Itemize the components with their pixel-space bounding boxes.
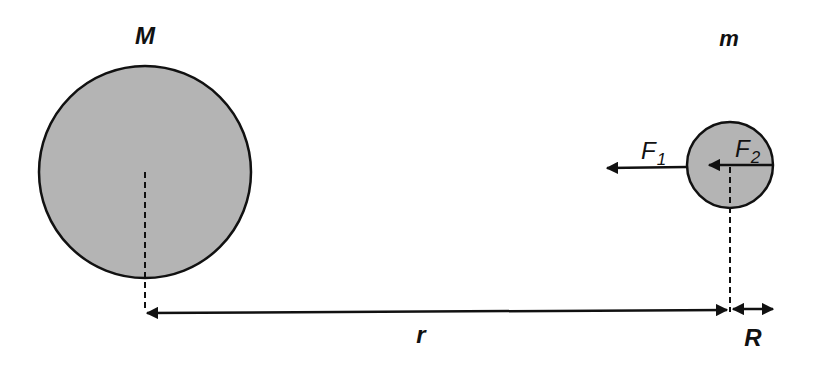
force-f1-label: F1 [641,137,666,169]
force-f1-arrow [607,167,687,168]
distance-r-label: r [416,321,427,348]
small-mass-label: m [719,26,739,51]
diagram-svg: M m F1 F2 r R [0,0,816,369]
diagram-canvas: M m F1 F2 r R [0,0,816,369]
distance-r-arrow [147,310,727,313]
large-mass-label: M [135,22,156,49]
radius-R-label: R [744,324,762,351]
